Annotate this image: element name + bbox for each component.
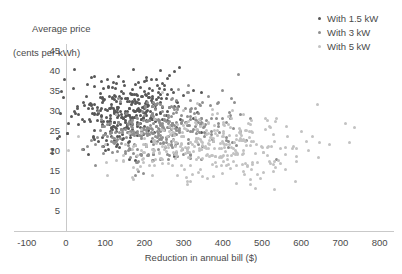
data-point xyxy=(116,150,119,153)
data-point xyxy=(186,115,189,118)
data-point xyxy=(93,129,96,132)
data-point xyxy=(62,96,65,99)
data-point xyxy=(87,107,90,110)
data-point xyxy=(264,117,267,120)
data-point xyxy=(225,164,228,167)
legend-item-0[interactable]: With 1.5 kW xyxy=(318,12,402,24)
data-point xyxy=(187,84,190,87)
x-tick-0: 0 xyxy=(46,238,86,248)
data-point xyxy=(122,80,125,83)
data-point xyxy=(153,149,156,152)
x-tick-400: 400 xyxy=(203,238,243,248)
data-point xyxy=(217,122,220,125)
data-point xyxy=(211,108,214,111)
data-point xyxy=(193,145,196,148)
data-point xyxy=(100,114,103,117)
data-point xyxy=(256,173,259,176)
data-point xyxy=(195,128,198,131)
data-point xyxy=(180,164,183,167)
data-point xyxy=(114,131,117,134)
data-point xyxy=(196,141,199,144)
data-point xyxy=(192,89,195,92)
data-point xyxy=(206,153,209,156)
data-point xyxy=(142,172,145,175)
data-point xyxy=(153,118,156,121)
data-point xyxy=(344,122,347,125)
data-point xyxy=(163,118,166,121)
data-point xyxy=(140,149,143,152)
data-point xyxy=(149,124,152,127)
data-point xyxy=(250,119,253,122)
data-point xyxy=(176,108,179,111)
legend-item-1[interactable]: With 3 kW xyxy=(318,26,402,38)
data-point xyxy=(305,140,308,143)
data-point xyxy=(227,123,230,126)
data-point xyxy=(72,87,75,90)
x-tick-700: 700 xyxy=(320,238,360,248)
data-point xyxy=(211,113,214,116)
data-point xyxy=(51,152,54,155)
data-point xyxy=(151,97,154,100)
data-point xyxy=(141,158,144,161)
data-point xyxy=(135,93,138,96)
data-point xyxy=(122,154,125,157)
data-point xyxy=(136,148,139,151)
data-point xyxy=(148,127,151,130)
data-point xyxy=(189,99,192,102)
data-point xyxy=(131,148,134,151)
data-point xyxy=(139,114,142,117)
data-point xyxy=(167,146,170,149)
x-tick-600: 600 xyxy=(281,238,321,248)
data-point xyxy=(171,164,174,167)
data-point xyxy=(182,109,185,112)
data-point xyxy=(189,164,192,167)
data-point xyxy=(220,164,223,167)
data-point xyxy=(238,139,241,142)
data-point xyxy=(207,95,210,98)
data-point xyxy=(237,73,240,76)
legend-item-2[interactable]: With 5 kW xyxy=(318,40,402,52)
data-point xyxy=(60,90,63,93)
data-point xyxy=(92,135,95,138)
data-point xyxy=(216,102,219,105)
x-tick-200: 200 xyxy=(124,238,164,248)
data-point xyxy=(117,121,120,124)
data-point xyxy=(130,125,133,128)
data-point xyxy=(139,165,142,168)
data-point xyxy=(243,173,246,176)
data-point xyxy=(235,144,238,147)
data-point xyxy=(104,143,107,146)
data-point xyxy=(166,93,169,96)
data-point xyxy=(221,172,224,175)
data-point xyxy=(117,106,120,109)
data-point xyxy=(235,134,238,137)
data-point xyxy=(150,78,153,81)
data-point xyxy=(129,156,132,159)
data-point xyxy=(77,123,80,126)
legend-marker-icon xyxy=(318,45,321,48)
data-point xyxy=(311,135,314,138)
data-point xyxy=(163,88,166,91)
data-point xyxy=(229,126,232,129)
data-point xyxy=(250,168,253,171)
data-point xyxy=(111,151,114,154)
data-point xyxy=(295,155,298,158)
data-point xyxy=(74,112,77,115)
data-point xyxy=(230,97,233,100)
data-point xyxy=(121,131,124,134)
y-axis-title-line1: Average price xyxy=(32,23,90,34)
data-point xyxy=(316,103,319,106)
data-point xyxy=(155,98,158,101)
data-point xyxy=(163,114,166,117)
data-point xyxy=(134,110,137,113)
data-point xyxy=(67,149,70,152)
data-point xyxy=(145,145,148,148)
data-point xyxy=(185,176,188,179)
data-point xyxy=(191,173,194,176)
data-point xyxy=(215,117,218,120)
data-point xyxy=(217,125,220,128)
data-point xyxy=(221,89,224,92)
data-point xyxy=(70,115,73,118)
data-point xyxy=(63,78,66,81)
data-point xyxy=(107,86,110,89)
